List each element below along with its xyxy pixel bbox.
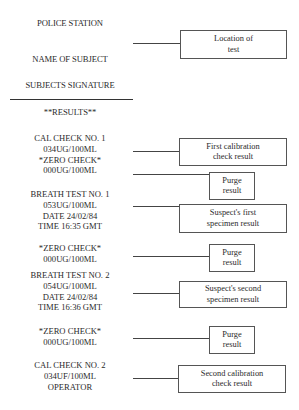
subjects-signature-label: SUBJECTS SIGNATURE: [0, 80, 140, 91]
printout-line: DATE 24/02/84: [0, 292, 140, 303]
connector-line-suspect-second: [133, 293, 179, 294]
printout-line: 034UG/100ML: [0, 144, 140, 155]
annotation-text: result: [222, 340, 241, 351]
connector-line-purge-2: [133, 256, 209, 257]
printout-line: *ZERO CHECK*: [0, 155, 140, 166]
cal-check-1-block: CAL CHECK NO. 1 034UG/100ML *ZERO CHECK*…: [0, 133, 140, 176]
connector-line-location: [133, 43, 180, 44]
annotation-suspect-second: Suspect's secondspecimen result: [179, 281, 287, 308]
annotation-text: Location of: [214, 34, 253, 45]
zero-check-3-block: *ZERO CHECK* 000UG/100ML: [0, 326, 140, 348]
breath-test-2-block: BREATH TEST NO. 2 054UG/100ML DATE 24/02…: [0, 270, 140, 313]
annotation-suspect-first: Suspect's firstspecimen result: [179, 204, 287, 233]
annotation-text: specimen result: [205, 295, 261, 306]
annotation-text: result: [222, 258, 241, 269]
printout-line: *ZERO CHECK*: [0, 326, 140, 337]
printout-line: 000UG/100ML: [0, 254, 140, 265]
connector-line-purge-1: [133, 174, 209, 175]
printout-line: CAL CHECK NO. 1: [0, 133, 140, 144]
printout-line: TIME 16:35 GMT: [0, 221, 140, 232]
printout-line: *ZERO CHECK*: [0, 243, 140, 254]
annotation-text: Suspect's second: [205, 284, 261, 295]
printout-line: 034UF/100ML: [0, 371, 140, 382]
annotation-text: result: [222, 186, 241, 197]
annotation-text: check result: [206, 152, 259, 163]
connector-line-second-calibration: [133, 378, 178, 379]
annotation-purge-3: Purgeresult: [209, 326, 255, 354]
printout-line: 054UG/100ML: [0, 281, 140, 292]
annotation-text: specimen result: [207, 219, 259, 230]
connector-line-suspect-first: [133, 206, 179, 207]
annotation-purge-2: Purgeresult: [209, 244, 255, 272]
annotation-text: Purge: [222, 176, 241, 187]
annotation-text: Purge: [222, 330, 241, 341]
annotation-first-calibration: First calibrationcheck result: [179, 138, 287, 166]
annotation-purge-1: Purgeresult: [209, 172, 255, 200]
cal-check-2-block: CAL CHECK NO. 2 034UF/100ML OPERATOR: [0, 360, 140, 392]
printout-line: 000UG/100ML: [0, 337, 140, 348]
annotation-text: Purge: [222, 248, 241, 259]
police-station-label: POLICE STATION: [0, 18, 140, 29]
name-of-subject-label: NAME OF SUBJECT: [0, 54, 140, 65]
printout-line: 053UG/100ML: [0, 200, 140, 211]
annotation-text: check result: [201, 379, 264, 390]
connector-line-first-calibration: [133, 151, 179, 152]
annotation-text: Second calibration: [201, 369, 264, 380]
printout-line: TIME 16:36 GMT: [0, 302, 140, 313]
annotation-second-calibration: Second calibrationcheck result: [178, 365, 286, 393]
annotation-location-of-test: Location oftest: [180, 30, 287, 59]
printout-line: DATE 24/02/84: [0, 211, 140, 222]
printout-line: BREATH TEST NO. 1: [0, 189, 140, 200]
printout-line: BREATH TEST NO. 2: [0, 270, 140, 281]
signature-divider: [10, 99, 133, 100]
annotation-text: test: [214, 45, 253, 56]
printout-line: OPERATOR: [0, 382, 140, 393]
printout-line: 000UG/100ML: [0, 165, 140, 176]
results-heading: **RESULTS**: [0, 107, 140, 118]
printout-line: CAL CHECK NO. 2: [0, 360, 140, 371]
zero-check-2-block: *ZERO CHECK* 000UG/100ML: [0, 243, 140, 265]
annotation-text: First calibration: [206, 142, 259, 153]
connector-line-purge-3: [133, 338, 209, 339]
breath-test-1-block: BREATH TEST NO. 1 053UG/100ML DATE 24/02…: [0, 189, 140, 232]
annotation-text: Suspect's first: [207, 208, 259, 219]
